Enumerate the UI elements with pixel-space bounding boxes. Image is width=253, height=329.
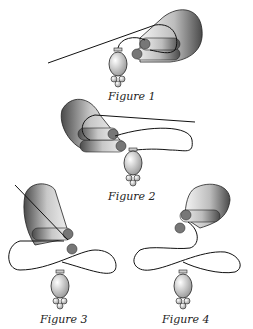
illustration — [0, 0, 253, 329]
figure-4-caption: Figure 4 — [162, 313, 210, 326]
figure-2-caption: Figure 2 — [108, 190, 156, 203]
diagram-stage: Figure 1 Figure 2 Figure 3 Figure 4 — [0, 0, 253, 329]
figure-3-caption: Figure 3 — [40, 313, 88, 326]
figure-1-caption: Figure 1 — [108, 90, 156, 103]
figure-1-drawing — [48, 10, 202, 87]
figure-2-drawing — [61, 99, 195, 186]
figure-3-drawing — [9, 184, 116, 309]
